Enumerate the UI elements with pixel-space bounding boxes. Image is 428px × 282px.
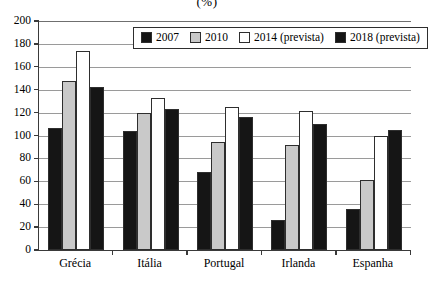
legend-swatch-2010 <box>190 32 201 43</box>
legend-swatch-2018 <box>335 32 346 43</box>
bar-itália-2014 <box>151 98 165 250</box>
bar-grécia-2007 <box>48 128 62 251</box>
y-tick-label-120: 120 <box>14 107 31 119</box>
bar-espanha-2014 <box>374 136 388 251</box>
y-tick-label-20: 20 <box>20 221 32 233</box>
bar-itália-2007 <box>123 131 137 250</box>
bar-group-portugal <box>188 21 262 250</box>
y-tick-label-0: 0 <box>25 244 31 256</box>
bar-irlanda-2014 <box>299 111 313 250</box>
bar-espanha-2018 <box>388 130 402 250</box>
y-tick-label-60: 60 <box>20 176 32 188</box>
x-label-itália: Itália <box>112 256 186 271</box>
bar-grécia-2010 <box>62 81 76 250</box>
x-tick-grécia <box>112 250 113 255</box>
legend-item-2007: 2007 <box>141 32 179 44</box>
plot-area: 200180160140120100806040200 <box>38 21 411 251</box>
bar-portugal-2010 <box>211 142 225 250</box>
bar-groups <box>39 21 411 250</box>
bar-grécia-2014 <box>76 51 90 250</box>
legend-swatch-2014 <box>239 32 250 43</box>
bar-irlanda-2010 <box>285 145 299 250</box>
legend-swatch-2007 <box>141 32 152 43</box>
x-label-portugal: Portugal <box>187 256 261 271</box>
legend-label-2007: 2007 <box>156 32 179 44</box>
bar-group-irlanda <box>262 21 336 250</box>
x-tick-espanha <box>410 250 411 255</box>
chart-title: (%) <box>0 0 414 10</box>
bar-group-grécia <box>39 21 113 250</box>
y-tick-label-80: 80 <box>20 153 32 165</box>
chart-legend: 2007 2010 2014 (prevista) 2018 (prevista… <box>133 27 428 49</box>
x-label-espanha: Espanha <box>336 256 410 271</box>
legend-item-2010: 2010 <box>190 32 228 44</box>
y-tick-label-180: 180 <box>14 38 31 50</box>
x-label-irlanda: Irlanda <box>261 256 335 271</box>
x-label-grécia: Grécia <box>38 256 112 271</box>
bar-group-espanha <box>337 21 411 250</box>
legend-item-2014: 2014 (prevista) <box>239 32 324 44</box>
bar-portugal-2007 <box>197 172 211 250</box>
bar-portugal-2018 <box>239 117 253 250</box>
bar-irlanda-2007 <box>271 220 285 250</box>
legend-item-2018: 2018 (prevista) <box>335 32 420 44</box>
bar-espanha-2010 <box>360 180 374 250</box>
x-tick-portugal <box>261 250 262 255</box>
bar-portugal-2014 <box>225 107 239 250</box>
legend-label-2018: 2018 (prevista) <box>350 32 420 44</box>
bar-irlanda-2018 <box>313 124 327 250</box>
x-axis-labels: GréciaItáliaPortugalIrlandaEspanha <box>38 256 410 271</box>
y-tick-label-100: 100 <box>14 130 31 142</box>
bar-itália-2010 <box>137 113 151 250</box>
bar-espanha-2007 <box>346 209 360 250</box>
x-tick-itália <box>186 250 187 255</box>
bar-group-itália <box>113 21 187 250</box>
y-tick-label-140: 140 <box>14 84 31 96</box>
bar-grécia-2018 <box>90 87 104 250</box>
bar-itália-2018 <box>165 109 179 250</box>
legend-label-2010: 2010 <box>205 32 228 44</box>
y-tick-label-40: 40 <box>20 198 32 210</box>
legend-label-2014: 2014 (prevista) <box>254 32 324 44</box>
y-tick-label-200: 200 <box>14 15 31 27</box>
x-tick-irlanda <box>335 250 336 255</box>
y-tick-label-160: 160 <box>14 61 31 73</box>
